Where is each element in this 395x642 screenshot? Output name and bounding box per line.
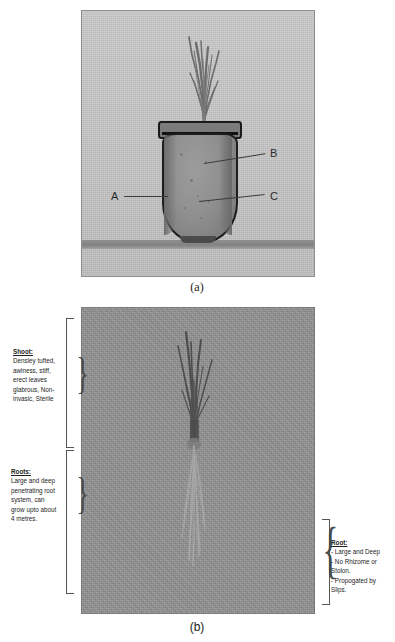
whole-plant-shoot-and-roots: [160, 316, 234, 606]
pot-base: [180, 236, 216, 243]
annotation-roots-line-5: 4 metres.: [11, 514, 73, 523]
annotation-root-right: Root: - Large and Deep - No Rhizome or S…: [331, 538, 393, 594]
annotation-shoot-line-3: erect leaves: [13, 375, 73, 384]
clay-pot: [162, 121, 234, 243]
annotation-roots: Roots: Large and deep penetrating root s…: [11, 467, 73, 523]
pot-right-shading: [219, 135, 232, 235]
annotation-roots-line-2: penetrating root: [11, 486, 73, 495]
label-a: A: [111, 191, 118, 202]
annotation-shoot: Shoot: Densley tufted, awlness, stiff, e…: [13, 347, 73, 403]
annotation-root-right-line-5: Slips.: [331, 585, 393, 594]
annotation-roots-header: Roots:: [11, 467, 73, 476]
label-b: B: [270, 148, 277, 159]
panel-b-whole-plant-photo: [81, 307, 315, 614]
annotation-root-right-header: Root:: [331, 538, 393, 547]
annotation-shoot-line-5: invasic, Sterile: [13, 394, 73, 403]
shoot-curly-brace: }: [76, 352, 89, 396]
annotation-shoot-header: Shoot:: [13, 347, 73, 356]
annotation-root-right-line-3: Stolon.: [331, 566, 393, 575]
annotation-shoot-line-1: Densley tufted,: [13, 356, 73, 365]
panel-a-potted-plant-photo: A B C: [81, 10, 315, 277]
annotation-root-right-line-1: - Large and Deep: [331, 547, 393, 556]
annotation-root-right-line-4: - Propogated by: [331, 576, 393, 585]
caption-panel-b: (b): [81, 620, 313, 634]
annotation-roots-line-3: system, can: [11, 495, 73, 504]
annotation-roots-line-4: grow upto about: [11, 505, 73, 514]
annotation-roots-line-1: Large and deep: [11, 476, 73, 485]
caption-panel-a: (a): [81, 280, 313, 295]
plant-shoot-in-pot: [178, 29, 230, 129]
annotation-shoot-line-4: glabrous, Non-: [13, 385, 73, 394]
roots-curly-brace: }: [76, 472, 89, 516]
pot-left-shading: [164, 135, 177, 235]
annotation-shoot-line-2: awlness, stiff,: [13, 366, 73, 375]
label-c: C: [270, 191, 278, 202]
annotation-root-right-line-2: - No Rhizome or: [331, 557, 393, 566]
label-a-leader-line: [124, 196, 168, 197]
